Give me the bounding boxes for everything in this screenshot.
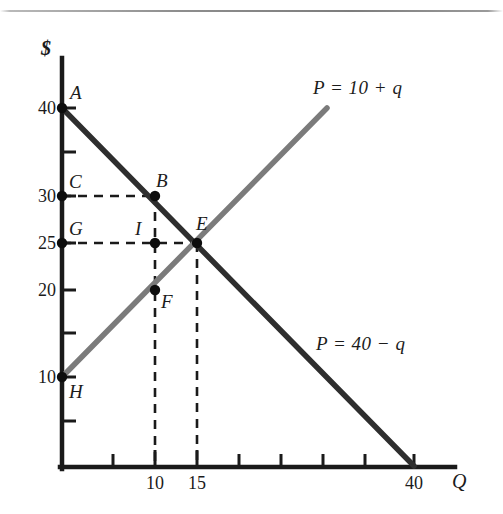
point-label-A: A <box>70 83 82 102</box>
point-marker-H <box>57 372 67 382</box>
x-axis-title: Q <box>452 471 466 491</box>
y-tick-label-20: 20 <box>24 281 56 299</box>
supply-demand-figure: $ Q 40 30 25 20 10 10 15 40 A C B G I E … <box>0 0 503 514</box>
x-tick-label-40: 40 <box>399 474 429 492</box>
point-label-E: E <box>196 214 208 233</box>
y-tick-label-40: 40 <box>24 99 56 117</box>
y-tick-label-25: 25 <box>24 234 56 252</box>
y-axis-title: $ <box>41 38 51 58</box>
point-marker-F <box>150 285 160 295</box>
y-tick-label-10: 10 <box>24 368 56 386</box>
point-label-I: I <box>135 219 141 238</box>
point-marker-A <box>57 103 67 113</box>
demand-curve-label: P = 40 − q <box>316 334 405 353</box>
x-tick-label-15: 15 <box>182 474 212 492</box>
point-marker-B <box>150 191 160 201</box>
x-tick-label-10: 10 <box>140 474 170 492</box>
demand-curve <box>62 108 414 466</box>
point-marker-C <box>57 191 67 201</box>
point-marker-I <box>150 238 160 248</box>
y-tick-label-30: 30 <box>24 187 56 205</box>
point-label-F: F <box>161 292 173 311</box>
chart-canvas <box>0 0 503 514</box>
point-label-H: H <box>69 382 83 401</box>
point-label-B: B <box>156 171 168 190</box>
point-marker-G <box>57 238 67 248</box>
point-label-G: G <box>69 219 83 238</box>
supply-curve-label: P = 10 + q <box>313 78 402 97</box>
point-marker-E <box>192 238 202 248</box>
point-label-C: C <box>69 172 82 191</box>
axes-group <box>60 58 455 469</box>
x-axis-ticks <box>113 450 414 467</box>
